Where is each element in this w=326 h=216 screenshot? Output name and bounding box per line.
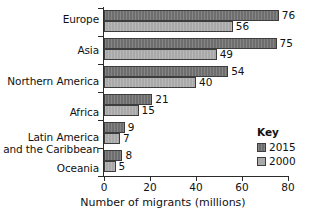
bar-value-2000-northern-america: 40 [199, 77, 212, 88]
bar-2000-africa [104, 105, 139, 116]
category-label-northern-america: Northern America [7, 76, 99, 88]
legend: Key 2015 2000 [252, 126, 312, 172]
bar-value-2000-oceania: 5 [119, 161, 126, 172]
bar-value-2015-northern-america: 54 [231, 66, 244, 77]
x-axis-tick-label-40: 40 [189, 181, 202, 193]
category-label-asia: Asia [77, 45, 99, 57]
category-label-africa: Africa [70, 107, 99, 119]
legend-item-2015: 2015 [257, 141, 312, 153]
legend-swatch-2000-icon [257, 157, 266, 166]
legend-label-2000: 2000 [269, 155, 296, 167]
x-axis-title: Number of migrants (millions) [0, 196, 326, 209]
bar-2000-asia [104, 49, 217, 60]
bar-2015-europe [104, 10, 279, 21]
bar-2015-latin-america [104, 122, 125, 133]
y-axis-tick [98, 148, 103, 149]
bar-value-2000-europe: 56 [236, 21, 249, 32]
bar-value-2015-asia: 75 [280, 38, 293, 49]
bar-2000-europe [104, 21, 233, 32]
legend-item-2000: 2000 [257, 155, 312, 167]
y-axis-tick [98, 92, 103, 93]
bar-value-2015-europe: 76 [282, 10, 295, 21]
category-label-europe: Europe [63, 14, 99, 26]
x-axis-tick-label-60: 60 [235, 181, 248, 193]
legend-swatch-2015-icon [257, 143, 266, 152]
bar-chart: Europe Asia Northern America Africa Lati… [0, 0, 326, 216]
y-axis-tick [98, 64, 103, 65]
y-axis-tick [98, 36, 103, 37]
legend-label-2015: 2015 [269, 141, 296, 153]
x-axis-tick-label-80: 80 [281, 181, 294, 193]
bar-value-2000-asia: 49 [220, 49, 233, 60]
bar-2000-latin-america [104, 133, 120, 144]
bar-value-2000-latin-america: 7 [123, 133, 130, 144]
bar-2000-northern-america [104, 77, 196, 88]
category-axis-labels: Europe Asia Northern America Africa Lati… [0, 0, 101, 175]
category-label-latin-america: Latin America and the Caribbean [3, 132, 99, 155]
category-label-oceania: Oceania [57, 163, 99, 175]
bar-2015-asia [104, 38, 277, 49]
y-axis-tick [98, 176, 103, 177]
bar-value-2000-africa: 15 [142, 105, 155, 116]
x-axis-tick-label-0: 0 [101, 181, 108, 193]
x-axis-tick-label-20: 20 [143, 181, 156, 193]
bar-value-2015-oceania: 8 [125, 150, 132, 161]
y-axis-tick [98, 8, 103, 9]
bar-value-2015-africa: 21 [155, 94, 168, 105]
bar-2000-oceania [104, 161, 116, 172]
legend-title: Key [257, 126, 312, 138]
y-axis-tick [98, 120, 103, 121]
